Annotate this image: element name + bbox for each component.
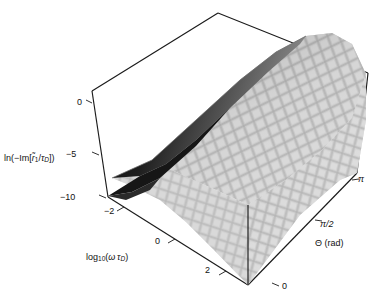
z-title-suffix: ]) (49, 153, 55, 163)
surface-plot-figure: ln(−Im[r̃1/τD]) 0 −5 −10 log10(ω τD) −2 … (0, 0, 383, 305)
y-axis-title: Θ (rad) (315, 239, 344, 248)
x-title-close: ) (125, 252, 128, 262)
y-tick-mark-0 (272, 283, 279, 286)
x-title-prefix: log (86, 252, 98, 262)
x-tick-label-minus2: −2 (104, 206, 114, 216)
z-tick-mark-m5 (92, 152, 99, 155)
z-tick-label-minus10: −10 (60, 192, 75, 202)
y-tick-label-pi-half: π/2 (320, 219, 334, 229)
z-tick-mark-m10 (99, 195, 106, 198)
plot-canvas (0, 0, 383, 305)
x-tick-mark-m2 (117, 207, 124, 211)
y-tick-label-pi: π (358, 174, 364, 184)
x-tick-mark-0 (168, 239, 175, 243)
x-axis-title: log10(ω τD) (86, 253, 128, 263)
z-axis-title: ln(−Im[r̃1/τD]) (4, 154, 54, 164)
z-tick-mark-0 (86, 100, 92, 103)
x-tick-label-0: 0 (155, 236, 160, 246)
z-tick-label-minus5: −5 (66, 149, 76, 159)
z-tick-label-0: 0 (77, 97, 82, 107)
x-tick-label-2: 2 (205, 265, 210, 275)
x-tick-mark-2 (219, 271, 226, 275)
z-title-prefix: ln(−Im[ (4, 153, 32, 163)
y-tick-label-0: 0 (282, 281, 287, 291)
